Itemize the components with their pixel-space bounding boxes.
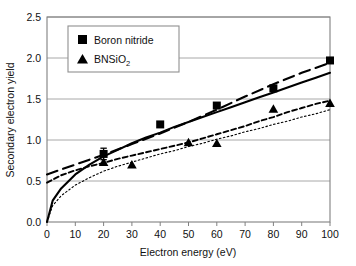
x-axis-title-label: Electron energy (eV) bbox=[140, 246, 236, 258]
y-tick-label: 2.0 bbox=[26, 52, 41, 64]
data-point-square bbox=[100, 150, 108, 158]
chart-legend: Boron nitride BNSiO2 bbox=[68, 26, 179, 72]
y-tick-label: 1.5 bbox=[26, 93, 41, 105]
x-axis-title: Electron energy (eV) bbox=[140, 246, 236, 258]
x-tick-label: 90 bbox=[296, 228, 308, 240]
x-tick-label: 0 bbox=[44, 228, 50, 240]
x-tick-label: 20 bbox=[98, 228, 110, 240]
x-tick-label: 100 bbox=[321, 228, 339, 240]
y-tick-label: 1.0 bbox=[26, 134, 41, 146]
x-tick-label: 80 bbox=[268, 228, 280, 240]
y-axis-title: Secondary electron yield bbox=[4, 62, 16, 177]
x-tick-label: 10 bbox=[69, 228, 81, 240]
legend-box bbox=[68, 26, 179, 72]
x-tick-label: 40 bbox=[154, 228, 166, 240]
x-tick-label: 30 bbox=[126, 228, 138, 240]
chart-container: 0102030405060708090100 0.00.51.01.52.02.… bbox=[0, 0, 356, 266]
x-tick-label: 70 bbox=[239, 228, 251, 240]
legend-marker-square-icon bbox=[78, 35, 87, 44]
x-tick-label: 50 bbox=[183, 228, 195, 240]
secondary-electron-yield-chart: 0102030405060708090100 0.00.51.01.52.02.… bbox=[0, 0, 356, 266]
y-axis-title-label: Secondary electron yield bbox=[4, 62, 16, 177]
y-tick-label: 0.5 bbox=[26, 175, 41, 187]
data-point-square bbox=[156, 120, 164, 128]
legend-label-boron-nitride: Boron nitride bbox=[94, 34, 154, 46]
data-point-square bbox=[326, 56, 334, 64]
data-point-square bbox=[213, 102, 221, 110]
y-tick-label: 2.5 bbox=[26, 11, 41, 23]
x-tick-label: 60 bbox=[211, 228, 223, 240]
y-tick-label: 0.0 bbox=[26, 216, 41, 228]
data-point-square bbox=[269, 84, 277, 92]
